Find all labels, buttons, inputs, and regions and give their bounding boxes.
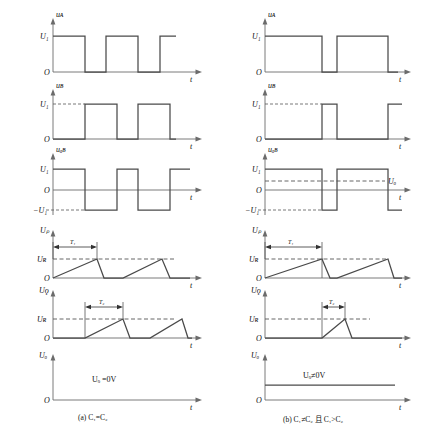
dimension-label-t1: T₁ — [70, 239, 75, 245]
panel-a-row-ub: uʙ t O U₁ — [40, 81, 202, 151]
origin-label: O — [44, 274, 50, 283]
axis-label-y: uʙ — [56, 81, 64, 90]
panel-a: uᴀ t O U₁ uʙ t O U₁ uₐ — [33, 10, 202, 422]
origin-label: O — [256, 334, 262, 343]
axis-label-x: t — [190, 281, 193, 290]
axis-label-y: uᴀ — [268, 10, 276, 19]
panel-b-row-up: Uₚ t O Uʀ T₁ — [249, 226, 411, 290]
axis-label-x: t — [399, 75, 402, 84]
axis-label-y: uʙ — [268, 81, 276, 90]
dimension-label-t2: T₂ — [99, 299, 104, 305]
origin-label: O — [256, 186, 262, 195]
panel-a-caption: (a) C₁=C₂ — [78, 413, 108, 422]
waveform-figure: uᴀ t O U₁ uʙ t O U₁ uₐ — [0, 0, 425, 446]
panel-a-row-uab: uₐʙ t O U₁ −U₁ — [33, 145, 202, 215]
axis-label-x: t — [190, 193, 193, 202]
panel-b-row-uo: Uₒ t O Uₒ≠0V — [251, 351, 411, 412]
origin-label: O — [256, 396, 262, 405]
axis-label-x: t — [399, 193, 402, 202]
annotation-uo-zero: Uₒ =0V — [92, 375, 117, 384]
axis-label-x: t — [399, 142, 402, 151]
panel-b-caption: (b) C₁≠C₂ 且 C₁>C₂ — [283, 415, 344, 424]
axis-label-y: Uₚ — [252, 226, 262, 235]
axis-label-y: Uₒ — [39, 351, 48, 360]
axis-label-y: Uₚ — [40, 226, 50, 235]
level-label-u1: U₁ — [252, 165, 261, 174]
origin-label: O — [44, 334, 50, 343]
level-label-ur: Uʀ — [249, 315, 259, 324]
level-label-neg-u1: −U₁ — [33, 206, 47, 215]
axis-label-x: t — [190, 341, 193, 350]
level-label-u1: U₁ — [252, 100, 261, 109]
axis-label-y: Uǫ — [251, 286, 261, 295]
panel-b-row-ua: uᴀ t O U₁ — [252, 10, 411, 84]
axis-label-y: uₐʙ — [268, 145, 278, 154]
level-label-ur: Uʀ — [249, 255, 259, 264]
origin-label: O — [256, 135, 262, 144]
level-label-ur: Uʀ — [37, 315, 47, 324]
panel-b: uᴀ t O U₁ uʙ t O U₁ uₐʙ t — [245, 10, 411, 424]
axis-label-y: Uₒ — [251, 351, 260, 360]
axis-label-x: t — [399, 341, 402, 350]
panel-a-row-ua: uᴀ t O U₁ — [40, 10, 202, 84]
axis-label-y: uᴀ — [56, 10, 64, 19]
axis-label-y: uₐʙ — [56, 145, 66, 154]
axis-label-x: t — [190, 142, 193, 151]
origin-label: O — [256, 274, 262, 283]
axis-label-x: t — [190, 75, 193, 84]
origin-label: O — [44, 186, 50, 195]
axis-label-x: t — [399, 281, 402, 290]
level-label-u1: U₁ — [40, 165, 49, 174]
axis-label-x: t — [190, 403, 193, 412]
panel-b-row-uq: Uǫ t O Uʀ T₂ — [249, 286, 411, 350]
level-label-neg-u1: −U₁ — [245, 206, 259, 215]
panel-b-row-uab: uₐʙ t O U₁ −U₁ Uₒ — [245, 145, 411, 215]
level-label-ur: Uʀ — [37, 255, 47, 264]
panel-a-row-uo: Uₒ t O Uₒ =0V — [39, 351, 202, 412]
level-label-u1: U₁ — [40, 100, 49, 109]
panel-a-row-up: Uₚ t O Uʀ T₁ — [37, 226, 202, 290]
axis-label-x: t — [399, 403, 402, 412]
origin-label: O — [44, 68, 50, 77]
level-label-u1: U₁ — [40, 32, 49, 41]
level-label-u1: U₁ — [252, 32, 261, 41]
annotation-uo-nonzero: Uₒ≠0V — [303, 371, 325, 380]
axis-label-y: Uǫ — [39, 286, 49, 295]
origin-label: O — [44, 396, 50, 405]
dc-level-label-uo: Uₒ — [388, 177, 397, 186]
panel-b-row-ub: uʙ t O U₁ — [252, 81, 411, 151]
dimension-label-t2: T₂ — [329, 299, 334, 305]
panel-a-row-uq: Uǫ t O Uʀ T₂ — [37, 286, 202, 350]
origin-label: O — [44, 135, 50, 144]
origin-label: O — [256, 68, 262, 77]
dimension-label-t1: T₁ — [288, 239, 293, 245]
